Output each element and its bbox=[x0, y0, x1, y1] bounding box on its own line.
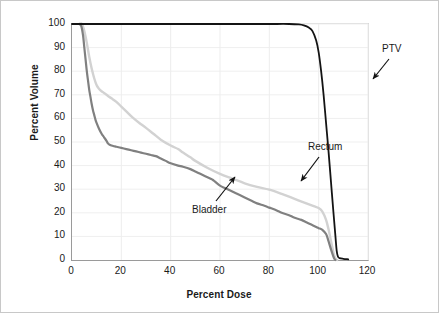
series-label-ptv: PTV bbox=[382, 43, 401, 54]
y-tick-10: 10 bbox=[37, 230, 65, 240]
y-tick-70: 70 bbox=[37, 89, 65, 99]
x-tick-20: 20 bbox=[100, 265, 140, 276]
series-label-rectum: Rectum bbox=[308, 141, 342, 152]
y-tick-30: 30 bbox=[37, 183, 65, 193]
ptv-arrow bbox=[373, 59, 389, 79]
y-tick-80: 80 bbox=[37, 65, 65, 75]
x-tick-40: 40 bbox=[150, 265, 190, 276]
x-tick-60: 60 bbox=[199, 265, 239, 276]
y-tick-90: 90 bbox=[37, 42, 65, 52]
x-tick-120: 120 bbox=[347, 265, 387, 276]
x-tick-0: 0 bbox=[51, 265, 91, 276]
y-tick-60: 60 bbox=[37, 112, 65, 122]
series-line-ptv bbox=[72, 24, 348, 259]
x-tick-100: 100 bbox=[298, 265, 338, 276]
x-tick-80: 80 bbox=[248, 265, 288, 276]
series-line-rectum bbox=[79, 23, 337, 260]
y-tick-50: 50 bbox=[37, 136, 65, 146]
y-tick-100: 100 bbox=[37, 18, 65, 28]
y-tick-20: 20 bbox=[37, 207, 65, 217]
x-axis-title: Percent Dose bbox=[71, 289, 367, 300]
y-tick-0: 0 bbox=[37, 254, 65, 264]
dvh-chart-figure: Percent Volume 1009080706050403020100 Pe… bbox=[0, 0, 439, 313]
series-label-bladder: Bladder bbox=[192, 204, 226, 215]
y-tick-40: 40 bbox=[37, 160, 65, 170]
series-line-bladder bbox=[79, 24, 335, 260]
